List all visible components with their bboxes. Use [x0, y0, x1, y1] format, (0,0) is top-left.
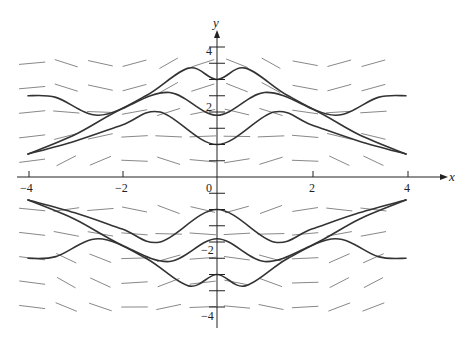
slope-segment: [292, 208, 318, 212]
slope-segment: [364, 278, 383, 288]
slope-segment: [88, 85, 113, 90]
slope-segment: [292, 258, 318, 259]
y-tick-label: 4: [206, 44, 212, 58]
slope-segment: [90, 254, 112, 262]
slope-segment: [90, 156, 111, 165]
slope-segment: [19, 135, 45, 138]
slope-segment: [158, 205, 180, 213]
slope-segment: [361, 133, 385, 139]
slope-segment: [156, 304, 181, 309]
x-tick-label: 0: [206, 181, 212, 195]
slope-segment: [363, 303, 385, 311]
slope-segment: [190, 136, 216, 137]
x-tick-label: −4: [20, 181, 33, 195]
slope-segment: [224, 233, 250, 234]
x-tick-label: 2: [309, 181, 315, 195]
slope-segment: [363, 156, 383, 166]
slope-segment: [362, 84, 386, 91]
slope-segment: [55, 84, 78, 91]
slope-segment: [121, 160, 147, 161]
slope-field-chart: x y −4 −2 0 2 4 4 2 −2 −4: [0, 0, 461, 337]
slope-segment: [224, 306, 250, 308]
slope-segment: [259, 304, 284, 309]
slope-segment: [292, 306, 318, 307]
slope-segment: [190, 233, 216, 235]
slope-segment: [292, 160, 318, 161]
y-tick-label: −4: [201, 309, 214, 323]
slope-segment: [57, 277, 75, 287]
slope-segment: [262, 58, 281, 68]
slope-segment: [121, 282, 147, 284]
slope-segment: [293, 85, 318, 90]
slope-segment: [19, 208, 45, 211]
y-tick-label: 2: [206, 100, 212, 114]
slope-segment: [55, 60, 78, 67]
slope-segment: [329, 156, 349, 165]
y-axis: [209, 30, 225, 328]
slope-segment: [292, 135, 318, 137]
slope-segment: [159, 58, 177, 69]
slope-segment: [53, 111, 79, 113]
slope-segment: [157, 157, 180, 164]
slope-segment: [19, 86, 45, 88]
slope-segment: [56, 303, 77, 312]
slope-segment: [87, 208, 113, 210]
slope-segment: [121, 136, 147, 137]
slope-segment: [328, 303, 350, 311]
slope-segment: [19, 232, 45, 235]
slope-segment: [88, 61, 113, 66]
slope-segment: [19, 159, 45, 162]
slope-segment: [361, 232, 386, 237]
x-tick-label: −2: [115, 181, 128, 195]
slope-segment: [54, 231, 79, 236]
slope-segment: [89, 303, 112, 311]
slope-segment: [362, 60, 386, 67]
slope-segment: [155, 136, 181, 137]
slope-segment: [19, 305, 45, 308]
slope-segment: [123, 60, 147, 66]
slope-field-segments: [19, 58, 387, 311]
slope-segment: [327, 84, 351, 90]
slope-segment: [123, 84, 147, 90]
slope-segment: [155, 234, 182, 235]
slope-segment: [226, 83, 248, 91]
x-axis-label: x: [448, 169, 455, 184]
slope-segment: [19, 62, 45, 64]
slope-segment: [122, 207, 147, 212]
slope-segment: [90, 278, 110, 287]
slope-segment: [260, 279, 282, 287]
x-axis: [17, 171, 448, 180]
slope-segment: [87, 112, 113, 113]
slope-segment: [258, 234, 285, 235]
y-axis-label: y: [211, 15, 219, 30]
slope-segment: [259, 157, 282, 164]
slope-segment: [19, 281, 45, 284]
slope-segment: [224, 159, 249, 163]
y-axis-arrow-icon: [214, 30, 220, 38]
slope-segment: [327, 60, 351, 67]
slope-segment: [292, 282, 319, 283]
slope-segment: [326, 208, 352, 211]
slope-segment: [330, 278, 349, 288]
slope-segment: [329, 254, 350, 263]
x-tick-label: 4: [404, 181, 410, 195]
slope-segment: [292, 233, 318, 235]
slope-segment: [360, 111, 386, 113]
slope-segment: [224, 256, 250, 260]
slope-segment: [293, 61, 318, 66]
slope-segment: [226, 59, 247, 68]
slope-segment: [260, 205, 282, 213]
slope-segment: [191, 84, 214, 91]
x-axis-arrow-icon: [440, 174, 448, 180]
slope-segment: [19, 111, 45, 114]
y-tick-label: −2: [201, 243, 214, 257]
slope-segment: [57, 156, 76, 166]
slope-segment: [258, 136, 284, 137]
